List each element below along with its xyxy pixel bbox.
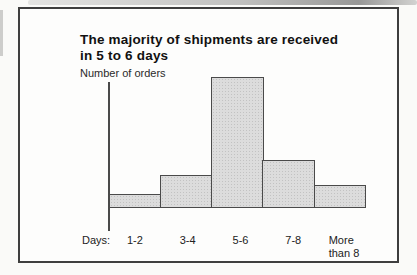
bar-1-2	[109, 194, 162, 208]
x-label-More than 8: More than 8	[320, 234, 373, 260]
x-label-5-6: 5-6	[214, 234, 267, 260]
chart-title-line1: The majority of shipments are received	[80, 32, 338, 47]
bars	[109, 77, 367, 208]
chart-title: The majority of shipments are received i…	[80, 32, 400, 63]
figure-frame: The majority of shipments are received i…	[18, 7, 399, 263]
scan-artifact-left	[0, 10, 3, 56]
chart-title-line2: in 5 to 6 days	[80, 48, 168, 63]
x-label-7-8: 7-8	[267, 234, 320, 260]
bar-5-6	[211, 77, 264, 208]
bar-3-4	[160, 175, 213, 208]
bar-More than 8	[314, 185, 367, 208]
x-label-3-4: 3-4	[161, 234, 214, 260]
bar-7-8	[262, 160, 315, 208]
x-label-1-2: 1-2	[109, 234, 162, 260]
x-labels: 1-23-45-67-8More than 8	[109, 234, 373, 260]
scan-artifact-top	[28, 0, 417, 5]
x-axis-prefix: Days:	[82, 234, 110, 246]
